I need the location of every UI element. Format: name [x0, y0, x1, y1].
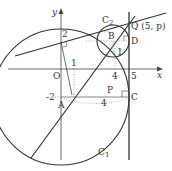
tick-x-5: 5	[131, 71, 137, 81]
label-b: B	[108, 31, 115, 41]
label-c1: C1	[98, 147, 109, 159]
origin-label: O	[53, 71, 60, 81]
y-axis-label: y	[51, 7, 58, 17]
label-p: P	[107, 85, 113, 95]
right-angle-c	[122, 91, 129, 97]
coordinate-diagram: y x O 2 -2 1 4 5 A B C D P Q (5, p) C2 C…	[0, 0, 172, 171]
label-d: D	[131, 36, 138, 46]
segment-radius	[61, 42, 72, 95]
label-c: C	[131, 92, 138, 102]
tick-y-minus2: -2	[46, 92, 55, 102]
label-c2: C2	[102, 15, 113, 27]
radius-label-1: 1	[117, 47, 123, 57]
tick-x-1: 1	[71, 58, 77, 68]
tangent-line	[15, 13, 166, 56]
y-axis-arrow-icon	[59, 8, 64, 14]
x-axis-label: x	[157, 70, 162, 80]
label-a: A	[57, 100, 65, 110]
label-q: Q (5, p)	[131, 21, 165, 31]
line-aq	[31, 16, 135, 158]
tick-y-2: 2	[62, 29, 68, 39]
tick-x-4: 4	[112, 71, 118, 81]
distance-label-4: 4	[101, 98, 107, 108]
